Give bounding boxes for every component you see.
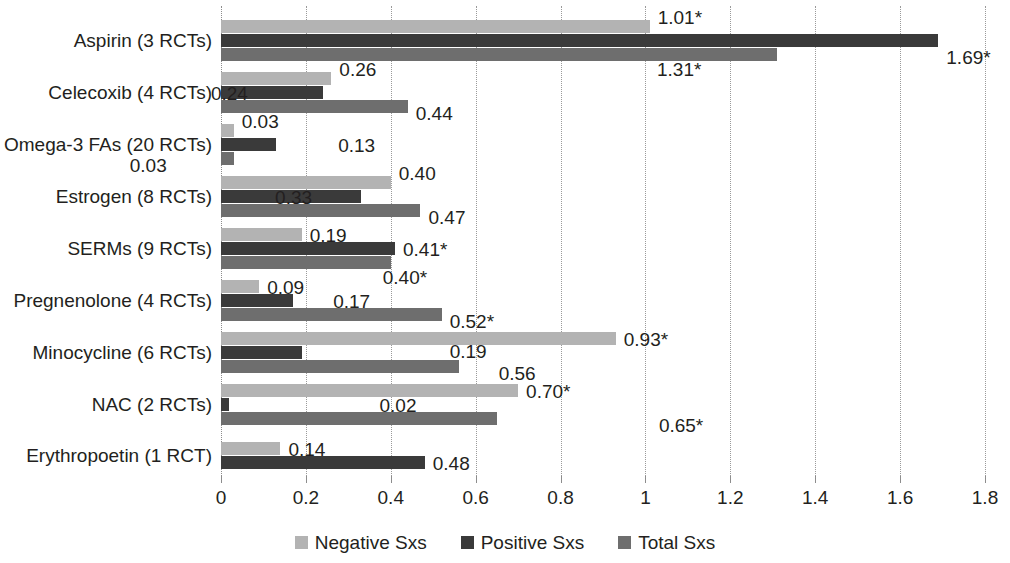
bar-value-label: 0.65* xyxy=(659,416,703,435)
plot-area: 1.01*0.260.030.400.190.090.93*0.70*0.141… xyxy=(221,6,985,476)
bar-value-label: 0.40 xyxy=(399,164,436,183)
x-axis-tick-label: 0 xyxy=(216,487,227,509)
bar-value-label: 0.70* xyxy=(526,382,570,401)
x-gridline xyxy=(730,6,732,476)
bar-negative-sxs xyxy=(221,124,234,137)
x-axis-tick xyxy=(985,476,986,483)
x-axis-tick-label: 0.8 xyxy=(547,487,573,509)
bar-value-label: 0.03 xyxy=(130,156,167,175)
y-axis-label-4: SERMs (9 RCTs) xyxy=(4,239,212,258)
bar-total-sxs xyxy=(221,100,408,113)
x-gridline xyxy=(645,6,647,476)
x-axis-tick xyxy=(476,476,477,483)
bar-positive-sxs xyxy=(221,456,425,469)
chart-legend: Negative SxsPositive SxsTotal Sxs xyxy=(0,533,1010,552)
x-axis-tick xyxy=(306,476,307,483)
x-axis-tick xyxy=(815,476,816,483)
x-gridline xyxy=(900,6,902,476)
bar-value-label: 0.56 xyxy=(499,364,536,383)
bar-value-label: 0.52* xyxy=(450,312,494,331)
legend-item[interactable]: Total Sxs xyxy=(618,533,715,552)
bar-total-sxs xyxy=(221,152,234,165)
legend-item[interactable]: Positive Sxs xyxy=(461,533,584,552)
x-axis-tick-label: 1.6 xyxy=(887,487,913,509)
y-axis-label-8: Erythropoetin (1 RCT) xyxy=(4,446,212,465)
y-axis-label-6: Minocycline (6 RCTs) xyxy=(4,343,212,362)
bar-negative-sxs xyxy=(221,228,302,241)
bar-positive-sxs xyxy=(221,294,293,307)
bar-positive-sxs xyxy=(221,398,229,411)
x-axis-tick-label: 0.4 xyxy=(378,487,404,509)
y-axis-label-5: Pregnenolone (4 RCTs) xyxy=(4,291,212,310)
bar-total-sxs xyxy=(221,412,497,425)
bar-negative-sxs xyxy=(221,20,650,33)
x-gridline xyxy=(561,6,563,476)
bar-positive-sxs xyxy=(221,34,938,47)
bar-value-label: 1.31* xyxy=(657,60,701,79)
bar-positive-sxs xyxy=(221,138,276,151)
bar-value-label: 0.44 xyxy=(416,104,453,123)
x-axis-tick xyxy=(900,476,901,483)
legend-item[interactable]: Negative Sxs xyxy=(295,533,427,552)
bar-value-label: 1.69* xyxy=(946,48,990,67)
bar-value-label: 0.13 xyxy=(338,136,375,155)
legend-label: Total Sxs xyxy=(638,533,715,552)
y-axis-label-7: NAC (2 RCTs) xyxy=(4,395,212,414)
bar-negative-sxs xyxy=(221,332,616,345)
y-axis-label-1: Celecoxib (4 RCTs) xyxy=(4,83,212,102)
x-axis-tick xyxy=(221,476,222,483)
legend-swatch-icon xyxy=(618,536,631,549)
bar-value-label: 0.26 xyxy=(339,60,376,79)
bar-value-label: 0.47 xyxy=(428,208,465,227)
x-axis-tick xyxy=(391,476,392,483)
x-axis-tick-label: 1 xyxy=(640,487,651,509)
bar-total-sxs xyxy=(221,308,442,321)
x-axis-tick-label: 0.6 xyxy=(462,487,488,509)
bar-value-label: 1.01* xyxy=(658,8,702,27)
legend-swatch-icon xyxy=(295,536,308,549)
bar-value-label: 0.93* xyxy=(624,330,668,349)
x-axis-tick-label: 1.2 xyxy=(717,487,743,509)
x-gridline xyxy=(815,6,817,476)
bar-negative-sxs xyxy=(221,384,518,397)
bar-positive-sxs xyxy=(221,346,302,359)
bar-total-sxs xyxy=(221,256,391,269)
legend-label: Negative Sxs xyxy=(315,533,427,552)
bar-negative-sxs xyxy=(221,280,259,293)
y-axis-label-2: Omega-3 FAs (20 RCTs) xyxy=(4,135,212,154)
legend-label: Positive Sxs xyxy=(481,533,584,552)
bar-value-label: 0.41* xyxy=(403,240,447,259)
y-axis-label-3: Estrogen (8 RCTs) xyxy=(4,187,212,206)
bar-value-label: 0.03 xyxy=(242,112,279,131)
bar-total-sxs xyxy=(221,360,459,373)
bar-value-label: 0.40* xyxy=(383,268,427,287)
y-axis-label-0: Aspirin (3 RCTs) xyxy=(4,31,212,50)
x-axis-tick-label: 1.8 xyxy=(972,487,998,509)
bar-total-sxs xyxy=(221,204,420,217)
bar-value-label: 0.19 xyxy=(450,342,487,361)
x-axis-tick-label: 1.4 xyxy=(802,487,828,509)
x-gridline xyxy=(985,6,987,476)
legend-swatch-icon xyxy=(461,536,474,549)
x-axis-tick xyxy=(730,476,731,483)
x-axis-tick xyxy=(561,476,562,483)
x-gridline xyxy=(476,6,478,476)
bar-value-label: 0.48 xyxy=(433,454,470,473)
bar-negative-sxs xyxy=(221,442,280,455)
x-axis-tick xyxy=(645,476,646,483)
grouped-bar-chart: 1.01*0.260.030.400.190.090.93*0.70*0.141… xyxy=(0,0,1010,563)
x-axis-tick-label: 0.2 xyxy=(293,487,319,509)
bar-positive-sxs xyxy=(221,242,395,255)
